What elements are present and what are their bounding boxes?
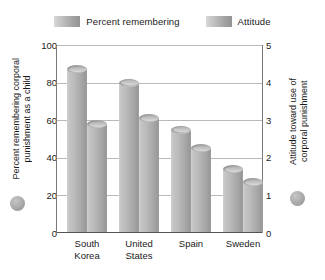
x-axis-label-spain: Spain <box>161 238 221 250</box>
bar-united-states-attitude <box>139 118 159 233</box>
x-axis-label-sweden: Sweden <box>213 238 273 250</box>
legend-item-attitude: Attitude <box>206 16 271 27</box>
bar-sweden-percent-remembering <box>223 169 243 233</box>
y-axis-right-title: Attitude toward use of corporal punishme… <box>288 78 325 165</box>
bar-group-sweden <box>223 169 263 233</box>
x-axis-label-south-korea: South Korea <box>57 238 117 261</box>
bar-body <box>223 169 243 233</box>
bar-body <box>67 69 87 233</box>
bar-body <box>139 118 159 233</box>
bar-body <box>171 130 191 233</box>
y-axis-left-tick-0: 0 <box>35 229 57 239</box>
y-axis-left-line <box>56 45 57 233</box>
y-axis-right-tick-2: 2 <box>266 153 288 163</box>
plot-area <box>57 45 262 233</box>
x-axis-label-united-states: United States <box>109 238 169 261</box>
y-axis-right-tick-5: 5 <box>266 41 288 51</box>
bar-body <box>87 124 107 233</box>
chart-legend: Percent remembering Attitude <box>0 13 325 29</box>
bar-group-united-states <box>119 83 159 233</box>
x-axis-labels: South Korea United States Spain Sweden <box>57 238 262 274</box>
legend-item-percent-remembering: Percent remembering <box>54 16 179 27</box>
legend-label-attitude: Attitude <box>238 16 271 27</box>
bar-group-south-korea <box>67 69 107 233</box>
bar-spain-percent-remembering <box>171 130 191 233</box>
bar-body <box>243 182 263 233</box>
y-axis-left-tick-100: 100 <box>35 41 57 51</box>
bar-cap <box>171 126 191 134</box>
bar-body <box>119 83 139 233</box>
bar-body <box>191 148 211 233</box>
x-axis-line <box>57 232 262 233</box>
legend-swatch-percent-remembering <box>54 16 80 27</box>
bar-south-korea-attitude <box>87 124 107 233</box>
bar-united-states-percent-remembering <box>119 83 139 233</box>
bar-south-korea-percent-remembering <box>67 69 87 233</box>
bar-cap <box>87 120 107 128</box>
bar-group-spain <box>171 130 211 233</box>
y-axis-left-tick-20: 20 <box>35 191 57 201</box>
circle-marker-icon-left <box>10 196 25 211</box>
y-axis-right-tick-1: 1 <box>266 191 288 201</box>
bar-sweden-attitude <box>243 182 263 233</box>
legend-label-percent-remembering: Percent remembering <box>86 16 179 27</box>
bar-cap <box>119 79 139 87</box>
legend-swatch-attitude <box>206 16 232 27</box>
bar-spain-attitude <box>191 148 211 233</box>
y-axis-right-tick-3: 3 <box>266 116 288 126</box>
gridline-100 <box>57 45 262 46</box>
circle-marker-icon-right <box>290 191 305 206</box>
y-axis-right-tick-4: 4 <box>266 78 288 88</box>
